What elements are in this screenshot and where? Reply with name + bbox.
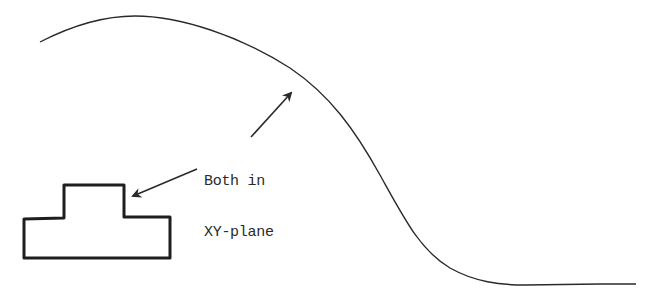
sweep-path-curve (40, 16, 636, 285)
arrow-to-profile (133, 169, 197, 196)
diagram-canvas: Both in XY-plane (0, 0, 659, 301)
diagram-svg (0, 0, 659, 301)
annotation-line-2: XY-plane (204, 224, 274, 241)
annotation-line-1: Both in (204, 173, 274, 190)
arrow-to-curve (251, 93, 291, 137)
profile-shape (24, 185, 170, 258)
annotation-label: Both in XY-plane (204, 139, 274, 275)
